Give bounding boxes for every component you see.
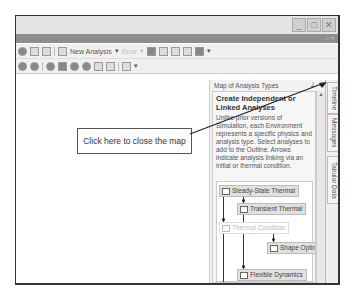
title-bar: _ □ ✕ — [16, 16, 338, 34]
zoom-fit-icon[interactable] — [58, 62, 67, 71]
analysis-diagram: Steady-State Thermal Transient Thermal T… — [216, 181, 313, 282]
callout-box: Click here to close the map — [77, 128, 192, 154]
link-dot — [222, 218, 225, 221]
chevron-down-icon[interactable]: ▾ — [115, 47, 119, 55]
link-line — [223, 191, 224, 283]
menu-bar: ⊥ ▾ — [16, 34, 338, 43]
tab-tabular-data[interactable]: Tabular Data — [327, 156, 339, 204]
link-dot — [242, 265, 245, 268]
edge-icon[interactable] — [171, 47, 180, 56]
callout-text: Click here to close the map — [83, 136, 186, 146]
toolbar-separator — [54, 47, 55, 56]
panel-heading: Create Independent or Linked Analyses — [216, 94, 312, 112]
chevron-down-icon[interactable]: ▾ — [134, 62, 138, 70]
wireframe-icon[interactable] — [159, 47, 168, 56]
panel-description: Unlike prior versions of Simulation, eac… — [216, 114, 312, 170]
analysis-icon — [240, 272, 248, 279]
new-analysis-icon — [58, 47, 67, 56]
node-shape-optimization[interactable]: Shape Optimization — [267, 242, 316, 254]
panel-body: Create Independent or Linked Analyses Un… — [212, 91, 316, 283]
link-dot — [272, 238, 275, 241]
zoom-box-icon[interactable] — [46, 62, 55, 71]
toolbar-row-1: New Analysis ▾ Error ▾ ▾ — [16, 44, 338, 59]
window-controls: _ □ ✕ — [292, 18, 336, 32]
node-thermal-condition[interactable]: Thermal Condition — [219, 222, 289, 234]
magnifier-2-icon[interactable] — [82, 62, 91, 71]
tab-messages[interactable]: Messages — [327, 114, 339, 152]
node-transient-thermal[interactable]: Transient Thermal — [237, 203, 306, 215]
chevron-down-icon: ▾ — [140, 47, 144, 55]
tab-timeline[interactable]: Timeline — [327, 82, 339, 114]
magnifier-icon[interactable] — [70, 62, 79, 71]
show-vertices-icon[interactable] — [147, 47, 156, 56]
graphics-area[interactable] — [16, 74, 216, 283]
maximize-button[interactable]: □ — [307, 18, 321, 32]
minimize-button[interactable]: _ — [292, 18, 306, 32]
panel-title: Map of Analysis Types — [214, 82, 279, 89]
side-tab-strip: Timeline Messages Tabular Data — [325, 80, 338, 283]
chevron-down-icon[interactable]: ▾ — [207, 47, 211, 55]
pin-icon[interactable]: ⊥ — [310, 81, 316, 89]
node-steady-state-thermal[interactable]: Steady-State Thermal — [219, 185, 299, 197]
view-icon[interactable] — [94, 62, 103, 71]
map-of-analysis-types-panel: Map of Analysis Types ⊥ × Create Indepen… — [209, 80, 326, 283]
zoom-icon[interactable] — [18, 62, 27, 71]
solve-icon[interactable] — [18, 47, 27, 56]
previous-view-icon[interactable] — [106, 62, 115, 71]
probe-icon[interactable] — [30, 47, 39, 56]
close-map-button[interactable]: × — [319, 81, 324, 89]
toolbar-row-2: ▾ — [16, 59, 338, 74]
new-analysis-button[interactable]: New Analysis — [70, 48, 112, 55]
analysis-icon — [270, 245, 278, 252]
worksheet-icon[interactable] — [42, 47, 51, 56]
zoom-in-icon[interactable] — [30, 62, 39, 71]
close-button[interactable]: ✕ — [322, 18, 336, 32]
pin-icon[interactable]: ⊥ ▾ — [324, 34, 334, 43]
panel-scrollbar[interactable]: ▲ — [316, 91, 325, 283]
analysis-icon — [240, 206, 248, 213]
toolbar-separator — [42, 62, 43, 71]
link-dot — [242, 199, 245, 202]
disabled-dropdown: Error — [122, 48, 138, 55]
viewports-icon[interactable] — [195, 47, 204, 56]
analysis-icon — [222, 188, 230, 195]
toolbar-separator — [118, 62, 119, 71]
display-icon[interactable] — [122, 62, 131, 71]
node-flexible-dynamics[interactable]: Flexible Dynamics — [237, 269, 307, 281]
annotation-icon[interactable] — [183, 47, 192, 56]
analysis-icon — [222, 225, 230, 232]
scroll-up-icon[interactable]: ▲ — [317, 91, 325, 97]
